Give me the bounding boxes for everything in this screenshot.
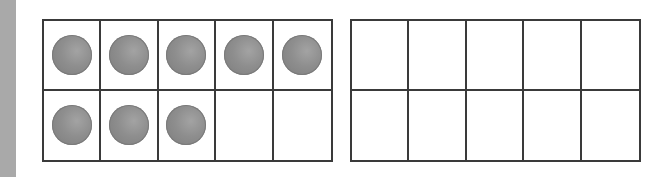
frame-cell [101,21,158,91]
frame-cell [582,91,639,161]
frame-cell [159,91,216,161]
frame-cell [352,91,409,161]
frame-cell [274,21,331,91]
ten-frame-1 [42,19,333,162]
frame-cell [159,21,216,91]
frame-cell [467,91,524,161]
side-bar [0,0,16,177]
counter-dot-icon [166,35,206,75]
counter-dot-icon [109,105,149,145]
frame-cell [582,21,639,91]
counter-dot-icon [52,35,92,75]
frame-cell [216,21,273,91]
frame-cell [352,21,409,91]
frame-cell [44,21,101,91]
frame-cell [524,21,581,91]
frame-cell [409,21,466,91]
frame-cell [44,91,101,161]
frame-cell [524,91,581,161]
frame-cell [101,91,158,161]
counter-dot-icon [282,35,322,75]
ten-frame-2 [350,19,641,162]
counter-dot-icon [52,105,92,145]
frame-cell [274,91,331,161]
frame-cell [467,21,524,91]
frame-cell [409,91,466,161]
counter-dot-icon [224,35,264,75]
counter-dot-icon [166,105,206,145]
counter-dot-icon [109,35,149,75]
frame-cell [216,91,273,161]
